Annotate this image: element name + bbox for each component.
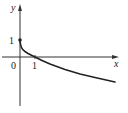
y-axis-arrow-icon	[18, 4, 22, 11]
point-0-1	[18, 38, 22, 42]
y-axis-label: y	[10, 2, 16, 13]
chart-canvas: y 1 0 1 x	[0, 0, 128, 113]
y-tick-label-1: 1	[9, 35, 14, 46]
x-tick-label-1: 1	[32, 60, 37, 71]
x-axis-label: x	[113, 58, 119, 69]
origin-label: 0	[11, 60, 16, 71]
